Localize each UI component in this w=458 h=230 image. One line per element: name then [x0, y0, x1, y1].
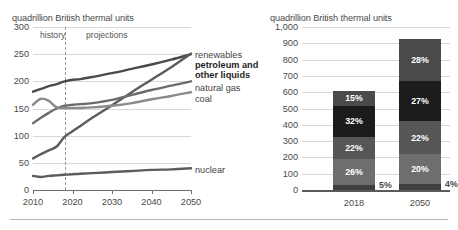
- bar-chart-y-tick: 400: [266, 120, 298, 130]
- line-chart-series-group: [33, 27, 207, 190]
- bar-segment-label: 27%: [399, 96, 441, 106]
- line-chart-x-tick: 2050: [181, 197, 201, 207]
- bar-chart-y-tick: 200: [266, 152, 298, 162]
- bar-segment-label: 15%: [333, 93, 375, 103]
- bar-chart-y-tick: 600: [266, 87, 298, 97]
- bar-segment-2018-renewables[interactable]: 15%: [333, 91, 375, 106]
- line-chart-x-tickmark: [152, 190, 153, 194]
- bar-segment-label-2050-nuclear: 4%: [445, 179, 458, 189]
- line-chart-x-tickmark: [73, 190, 74, 194]
- line-chart-x-tickmark: [191, 190, 192, 194]
- bar-chart-x-tick-2018: 2018: [344, 198, 364, 208]
- bar-chart-y-tick: 900: [266, 38, 298, 48]
- footer-rule: [10, 219, 448, 220]
- bar-segment-2050-petroleum-and-other-liquids[interactable]: 27%: [399, 81, 441, 121]
- bar-segment-2050-coal[interactable]: 20%: [399, 154, 441, 184]
- line-chart-y-tick: 250: [3, 49, 29, 59]
- line-chart-series-label-coal: coal: [195, 94, 212, 104]
- bar-chart-y-tick: 100: [266, 169, 298, 179]
- bar-segment-label-2018-nuclear: 5%: [379, 180, 392, 190]
- bar-chart-y-tick: 500: [266, 104, 298, 114]
- bar-chart-gridline: [302, 27, 450, 28]
- line-chart-y-tick: 0: [3, 185, 29, 195]
- bar-segment-2050-nuclear[interactable]: [399, 184, 441, 190]
- line-chart-y-tick: 300: [3, 22, 29, 32]
- bar-chart-y-tick: 700: [266, 71, 298, 81]
- bar-segment-label: 28%: [399, 55, 441, 65]
- line-chart-x-tickmark: [112, 190, 113, 194]
- projections-label: projections: [86, 30, 128, 40]
- bar-segment-label: 22%: [333, 143, 375, 153]
- bar-chart-y-tick: 1,000: [266, 22, 298, 32]
- line-chart-x-tick: 2010: [23, 197, 43, 207]
- line-chart-plot-area: 05010015020025030020102020203020402050: [33, 27, 191, 190]
- bar-chart-y-tick: 300: [266, 136, 298, 146]
- figure-canvas: quadrillion British thermal units 050100…: [0, 0, 458, 230]
- bar-segment-2018-nuclear[interactable]: [333, 185, 375, 190]
- line-chart-series-label-nuclear: nuclear: [195, 165, 225, 175]
- bar-chart-y-tick: 800: [266, 55, 298, 65]
- bar-segment-2050-renewables[interactable]: 28%: [399, 39, 441, 81]
- bar-2050[interactable]: 20%22%27%28%: [399, 41, 441, 190]
- line-chart-series-label-natural-gas: natural gas: [195, 83, 240, 93]
- line-chart-x-tick: 2040: [141, 197, 161, 207]
- history-label: history: [40, 30, 65, 40]
- line-chart-series-label-petroleum-and-other-liquids: petroleum and other liquids: [195, 60, 265, 81]
- bar-segment-label: 20%: [399, 164, 441, 174]
- line-chart-y-tick: 150: [3, 104, 29, 114]
- line-chart-y-tick: 50: [3, 158, 29, 168]
- line-chart-x-tick: 2020: [62, 197, 82, 207]
- line-chart-x-tickmark: [33, 190, 34, 194]
- line-series-nuclear: [33, 168, 191, 177]
- bar-chart-x-tick-2050: 2050: [410, 198, 430, 208]
- line-chart-units-label: quadrillion British thermal units: [12, 13, 134, 23]
- bar-segment-2018-coal[interactable]: 26%: [333, 159, 375, 185]
- bar-segment-label: 22%: [399, 133, 441, 143]
- bar-segment-label: 32%: [333, 116, 375, 126]
- line-chart-x-tick: 2030: [102, 197, 122, 207]
- line-series-natural-gas: [33, 81, 191, 123]
- bar-chart-plot-area: 01002003004005006007008009001,0005%26%22…: [302, 27, 450, 190]
- bar-chart-y-tick: 0: [266, 185, 298, 195]
- line-chart-series-label-renewables: renewables: [195, 50, 242, 60]
- bar-2018[interactable]: 26%22%32%15%: [333, 91, 375, 190]
- bar-segment-2018-natural-gas[interactable]: 22%: [333, 137, 375, 159]
- bar-segment-label: 26%: [333, 167, 375, 177]
- line-chart-y-tick: 200: [3, 76, 29, 86]
- bar-chart-baseline: [302, 190, 450, 192]
- line-chart-y-tick: 100: [3, 131, 29, 141]
- bar-segment-2050-natural-gas[interactable]: 22%: [399, 121, 441, 154]
- bar-segment-2018-petroleum-and-other-liquids[interactable]: 32%: [333, 106, 375, 138]
